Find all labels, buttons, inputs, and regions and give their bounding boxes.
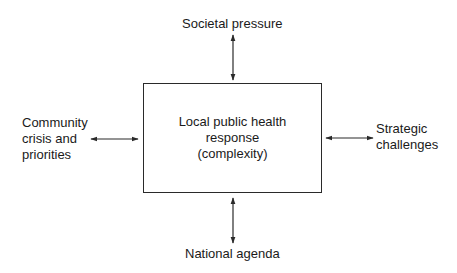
national-agenda-label: National agenda — [185, 246, 280, 262]
center-box-text: Local public health response (complexity… — [144, 114, 321, 162]
community-crisis-line-1: Community — [22, 115, 88, 131]
center-line-3: (complexity) — [144, 146, 321, 162]
center-line-1: Local public health — [144, 114, 321, 130]
strategic-challenges-line-1: Strategic — [376, 121, 438, 137]
strategic-challenges-line-2: challenges — [376, 137, 438, 153]
community-crisis-line-3: priorities — [22, 147, 88, 163]
strategic-challenges-label: Strategic challenges — [376, 121, 438, 153]
societal-pressure-label: Societal pressure — [182, 16, 282, 32]
diagram-canvas: Societal pressure National agenda Commun… — [0, 0, 457, 273]
community-crisis-line-2: crisis and — [22, 131, 88, 147]
community-crisis-label: Community crisis and priorities — [22, 115, 88, 163]
local-public-health-response-box: Local public health response (complexity… — [143, 83, 322, 193]
center-line-2: response — [144, 130, 321, 146]
